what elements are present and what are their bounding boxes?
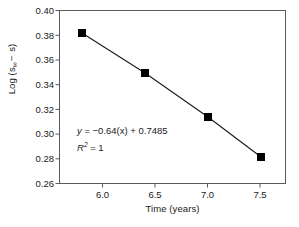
x-tick-label-group: 6.0 6.5 7.0 7.5: [0, 0, 299, 227]
x-tick-label: 6.0: [83, 190, 123, 200]
x-axis-label: Time (years): [59, 203, 286, 214]
equation-body: = −0.64(x) + 0.7485: [82, 125, 168, 136]
r-squared-symbol: R: [77, 142, 84, 153]
r-squared-value: = 1: [88, 142, 104, 153]
equation-text: y = −0.64(x) + 0.7485: [77, 124, 168, 138]
trendline-annotation: y = −0.64(x) + 0.7485 R2 = 1: [77, 124, 168, 154]
x-tick-label: 7.0: [188, 190, 228, 200]
r-squared-text: R2 = 1: [77, 138, 168, 155]
x-tick-label: 6.5: [135, 190, 175, 200]
chart-figure: Log (s∞− s) 0.26 0.28 0.30 0.32 0.34 0.3…: [0, 0, 299, 227]
x-tick-label: 7.5: [240, 190, 280, 200]
